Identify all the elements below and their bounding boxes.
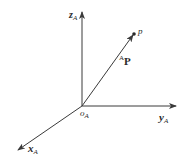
coordinate-frame-diagram: zA p AP oA yA xA: [0, 0, 182, 168]
point-p-label: p: [138, 27, 143, 36]
z-axis-label-sub: A: [73, 14, 77, 22]
y-axis-label: yA: [159, 112, 168, 125]
position-vector: [82, 35, 133, 106]
y-axis-label-sub: A: [164, 117, 168, 125]
origin-label-sub: A: [85, 112, 89, 120]
point-p-marker: [132, 32, 136, 36]
z-axis-label: zA: [69, 10, 77, 22]
origin-label: oA: [80, 109, 89, 120]
x-axis-label: xA: [28, 143, 38, 156]
x-axis-label-sub: A: [34, 148, 38, 156]
vector-label-main: P: [124, 55, 131, 67]
vector-label: AP: [119, 55, 131, 67]
